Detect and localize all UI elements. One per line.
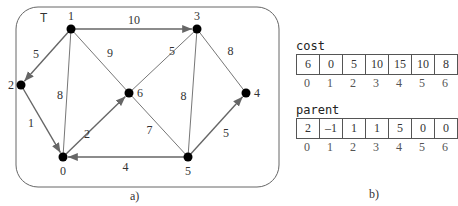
node-0 (59, 153, 68, 162)
parent-cell: 1 (342, 118, 366, 139)
node-4 (242, 89, 251, 98)
cost-indices: 0123456 (296, 75, 458, 91)
cost-cell: 0 (319, 54, 343, 75)
edge-weight: 7 (147, 123, 153, 137)
edge-1-0 (63, 29, 71, 157)
node-6 (125, 89, 134, 98)
parent-index: 0 (296, 139, 318, 155)
edge-weight: 5 (169, 44, 175, 58)
edge-6-3 (129, 29, 197, 93)
edge-1-6 (71, 29, 129, 93)
tree-label: T (40, 11, 48, 25)
edge-0-6 (63, 96, 125, 157)
parent-index: 6 (434, 139, 456, 155)
node-2 (17, 81, 26, 90)
edge-6-5 (129, 93, 188, 157)
parent-cell: 0 (434, 118, 458, 139)
cost-index: 3 (365, 75, 387, 91)
cost-index: 6 (434, 75, 456, 91)
edge-weight: 5 (223, 126, 229, 140)
edge-weight: 4 (123, 160, 129, 174)
parent-cells: 2–111500 (296, 118, 458, 139)
node-label: 4 (254, 86, 260, 100)
parent-array: parent 2–111500 0123456 (296, 103, 458, 155)
cost-cell: 6 (296, 54, 320, 75)
parent-index: 1 (319, 139, 341, 155)
parent-index: 5 (411, 139, 433, 155)
cost-index: 4 (388, 75, 410, 91)
edge-weight: 8 (228, 44, 234, 58)
cost-index: 1 (319, 75, 341, 91)
edge-weight: 1 (28, 116, 34, 130)
node-3 (193, 25, 202, 34)
edge-3-5 (188, 29, 197, 157)
edge-weight: 9 (107, 46, 113, 60)
edge-weight: 5 (33, 47, 39, 61)
node-label: 2 (8, 78, 14, 92)
edge-5-4 (188, 97, 243, 157)
parent-cell: 5 (388, 118, 412, 139)
cost-cells: 6051015108 (296, 54, 458, 75)
node-label: 3 (194, 9, 200, 23)
node-label: 6 (137, 86, 143, 100)
parent-title: parent (296, 103, 458, 118)
node-label: 5 (185, 164, 191, 178)
edge-weight: 8 (57, 88, 63, 102)
cost-index: 2 (342, 75, 364, 91)
node-label: 1 (68, 9, 74, 23)
cost-cell: 15 (388, 54, 412, 75)
parent-cell: 1 (365, 118, 389, 139)
edge-weight: 10 (128, 13, 140, 27)
parent-cell: 0 (411, 118, 435, 139)
parent-cell: –1 (319, 118, 343, 139)
node-label: 0 (60, 164, 66, 178)
parent-index: 2 (342, 139, 364, 155)
edge-weight: 2 (84, 127, 90, 141)
cost-index: 0 (296, 75, 318, 91)
node-5 (184, 153, 193, 162)
caption-a: a) (130, 189, 139, 203)
cost-cell: 8 (434, 54, 458, 75)
tree-boundary (16, 7, 279, 187)
cost-cell: 10 (411, 54, 435, 75)
cost-cell: 10 (365, 54, 389, 75)
cost-index: 5 (411, 75, 433, 91)
caption-b: b) (369, 187, 379, 202)
cost-title: cost (296, 39, 458, 54)
parent-index: 4 (388, 139, 410, 155)
edge-3-4 (197, 29, 246, 93)
node-1 (67, 25, 76, 34)
edge-1-2 (24, 29, 71, 81)
cost-cell: 5 (342, 54, 366, 75)
parent-indices: 0123456 (296, 139, 458, 155)
parent-cell: 2 (296, 118, 320, 139)
edge-weight: 8 (181, 89, 187, 103)
graph-panel-a: T 1059812457885 0123456 a) (0, 0, 290, 206)
cost-array: cost 6051015108 0123456 (296, 39, 458, 91)
parent-index: 3 (365, 139, 387, 155)
edge-2-0 (21, 85, 60, 153)
